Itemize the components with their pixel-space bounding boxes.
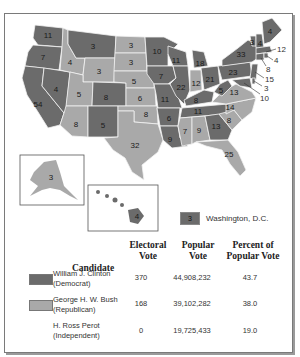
label-wv: 5 — [219, 86, 224, 95]
label-nj: 15 — [265, 75, 274, 84]
popular-vote: 39,102,282 — [162, 299, 222, 308]
label-ar: 6 — [167, 114, 172, 123]
table-row-bush: George H. W. Bush (Republican) 168 39,10… — [0, 295, 300, 321]
state-ct — [256, 53, 264, 60]
candidate-name: William J. Clinton — [53, 269, 111, 278]
popular-vote: 44,908,232 — [162, 273, 222, 282]
candidate-party: (Democrat) — [53, 279, 91, 288]
label-al: 9 — [197, 126, 202, 135]
label-ms: 7 — [183, 127, 188, 136]
label-nm: 5 — [101, 121, 106, 130]
label-id: 4 — [68, 58, 73, 67]
label-wa: 11 — [44, 31, 53, 40]
label-pa: 23 — [229, 68, 238, 77]
label-oh: 21 — [206, 75, 215, 84]
label-hi: 4 — [135, 212, 140, 221]
candidate-name: George H. W. Bush — [53, 295, 118, 304]
label-sd: 3 — [129, 58, 134, 67]
header-percent-1: Percent of — [218, 240, 288, 250]
republican-swatch — [29, 300, 53, 311]
electoral-vote: 0 — [126, 326, 156, 335]
electoral-vote: 370 — [126, 273, 156, 282]
label-ia: 7 — [159, 72, 164, 81]
percent-vote: 19.0 — [230, 326, 270, 335]
label-mt: 3 — [91, 42, 96, 51]
percent-vote: 43.7 — [230, 273, 270, 282]
header-electoral-1: Electoral — [120, 240, 176, 250]
label-il: 22 — [177, 83, 186, 92]
header-electoral-2: Vote — [120, 251, 176, 261]
percent-vote: 38.0 — [230, 299, 270, 308]
label-va: 13 — [230, 88, 239, 97]
label-mo: 11 — [161, 95, 170, 104]
dc-swatch: 3 — [180, 212, 200, 225]
label-sc: 8 — [227, 116, 232, 125]
label-or: 7 — [41, 53, 46, 62]
candidate-party: (Independent) — [53, 331, 100, 340]
label-ne: 5 — [132, 77, 137, 86]
table-row-perot: H. Ross Perot (Independent) 0 19,725,433… — [0, 321, 300, 347]
label-ca: 54 — [34, 100, 43, 109]
label-vt: 3 — [250, 38, 255, 47]
label-ks: 6 — [138, 94, 143, 103]
state-ak — [30, 160, 78, 200]
label-nv: 4 — [54, 85, 59, 94]
label-nh: 4 — [258, 39, 263, 48]
state-ri — [264, 53, 268, 58]
dc-label: Washington, D.C. — [206, 214, 268, 223]
label-ri: 4 — [274, 56, 279, 65]
label-ak: 3 — [49, 173, 54, 182]
label-de: 3 — [264, 84, 269, 93]
candidate-party: (Republican) — [53, 305, 96, 314]
label-ky: 8 — [194, 96, 199, 105]
popular-vote: 19,725,433 — [162, 326, 222, 335]
label-ny: 33 — [237, 50, 246, 59]
table-row-clinton: William J. Clinton (Democrat) 370 44,908… — [0, 269, 300, 295]
label-mn: 10 — [153, 47, 162, 56]
header-percent-2: Popular Vote — [218, 251, 288, 261]
label-az: 8 — [74, 120, 79, 129]
label-nc: 14 — [226, 103, 235, 112]
label-wy: 3 — [97, 67, 102, 76]
democrat-swatch — [29, 274, 53, 285]
electoral-vote: 168 — [126, 299, 156, 308]
label-tx: 32 — [131, 141, 140, 150]
state-co — [92, 82, 126, 106]
label-mi: 18 — [196, 59, 205, 68]
label-tn: 11 — [194, 107, 203, 116]
label-ma: 12 — [277, 45, 286, 54]
label-md: 10 — [260, 94, 269, 103]
candidate-name: H. Ross Perot — [53, 321, 100, 330]
label-co: 8 — [104, 93, 109, 102]
label-ct: 8 — [266, 65, 271, 74]
dc-legend: 3 Washington, D.C. — [180, 212, 268, 225]
label-ut: 5 — [77, 90, 82, 99]
label-la: 9 — [168, 135, 173, 144]
label-wi: 11 — [172, 56, 181, 65]
label-fl: 25 — [225, 150, 234, 159]
label-me: 4 — [268, 27, 273, 36]
state-fl — [196, 140, 246, 176]
label-in: 12 — [192, 79, 201, 88]
label-nd: 3 — [129, 41, 134, 50]
label-ok: 8 — [144, 110, 149, 119]
label-ga: 13 — [212, 122, 221, 131]
